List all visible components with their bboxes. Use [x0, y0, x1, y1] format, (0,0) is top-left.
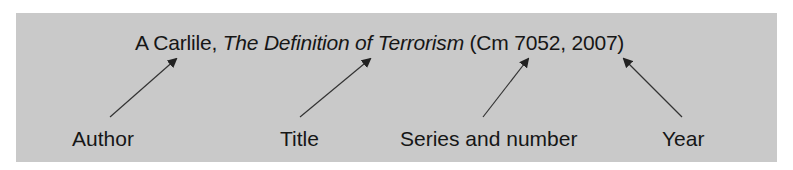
- label-title: Title: [280, 127, 319, 151]
- title-arrow-icon: [300, 59, 370, 117]
- series-arrow-icon: [483, 59, 528, 117]
- label-series: Series and number: [400, 127, 577, 151]
- label-year: Year: [662, 127, 704, 151]
- author-arrow-icon: [110, 59, 176, 117]
- year-arrow-icon: [624, 59, 682, 117]
- label-author: Author: [72, 127, 134, 151]
